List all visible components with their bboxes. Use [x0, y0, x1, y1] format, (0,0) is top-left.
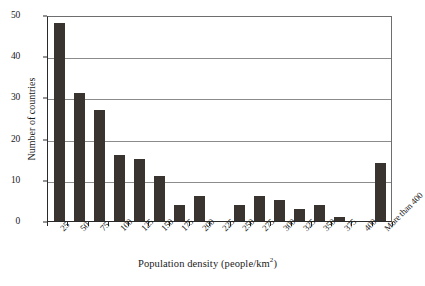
bar-slot	[270, 17, 290, 221]
y-tick-label: 40	[0, 52, 20, 62]
y-tick-label: 30	[0, 94, 20, 104]
bar	[174, 205, 185, 221]
bar	[134, 159, 145, 221]
y-axis-title: Number of countries	[26, 44, 37, 194]
bar-slot	[69, 17, 89, 221]
bar	[274, 200, 285, 221]
bar-slot	[49, 17, 69, 221]
bar-slot	[310, 17, 330, 221]
x-axis-title: Population density (people/km2)	[0, 256, 415, 269]
bar-slot	[230, 17, 250, 221]
y-tick-label: 0	[0, 217, 20, 227]
bar-slot	[149, 17, 169, 221]
bar-slot	[290, 17, 310, 221]
bar-slot	[330, 17, 350, 221]
bar	[334, 217, 345, 221]
bar	[375, 163, 386, 221]
bar-slot	[250, 17, 270, 221]
bar	[74, 93, 85, 221]
y-tick-label: 10	[0, 176, 20, 186]
bar	[194, 196, 205, 221]
bar	[54, 23, 65, 221]
bar	[114, 155, 125, 221]
y-tick-label: 50	[0, 11, 20, 21]
bar-slot	[350, 17, 370, 221]
bar-slot	[210, 17, 230, 221]
bars-container	[48, 17, 391, 221]
bar-slot	[129, 17, 149, 221]
bar	[94, 110, 105, 221]
plot-area	[47, 16, 392, 222]
bar	[234, 205, 245, 221]
bar	[314, 205, 325, 221]
bar-slot	[89, 17, 109, 221]
bar-slot	[370, 17, 390, 221]
x-axis-title-superscript: 2	[270, 256, 274, 264]
bar	[254, 196, 265, 221]
bar-slot	[169, 17, 189, 221]
bar	[294, 209, 305, 221]
bar	[154, 176, 165, 221]
y-tick-label: 20	[0, 135, 20, 145]
y-axis-title-container: Number of countries	[0, 16, 40, 222]
bar-slot	[109, 17, 129, 221]
bar-slot	[189, 17, 209, 221]
